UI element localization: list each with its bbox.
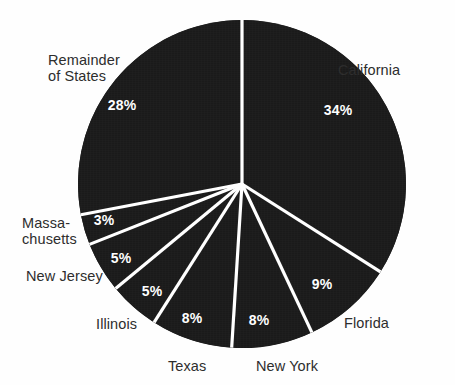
pie-chart-page: Remainder of States California Massa- ch… xyxy=(0,0,455,385)
slice-label-illinois: Illinois xyxy=(96,316,137,332)
slice-label-texas: Texas xyxy=(168,358,206,374)
slice-label-massachusetts: Massa- chusetts xyxy=(22,215,77,247)
slice-value-texas: 8% xyxy=(182,310,203,326)
slice-value-illinois: 5% xyxy=(142,283,163,299)
slice-label-california: California xyxy=(338,62,400,78)
slice-value-remainder-of-states: 28% xyxy=(108,97,137,113)
slice-value-massachusetts: 3% xyxy=(94,212,115,228)
slice-value-new-jersey: 5% xyxy=(111,250,132,266)
slice-value-new-york: 8% xyxy=(249,312,270,328)
slice-value-california: 34% xyxy=(324,102,353,118)
slice-value-florida: 9% xyxy=(312,276,333,292)
slice-label-new-york: New York xyxy=(256,358,318,374)
slice-label-new-jersey: New Jersey xyxy=(26,268,103,284)
pie-slice-remainder-of-states xyxy=(78,20,242,215)
slice-label-florida: Florida xyxy=(344,315,389,331)
slice-label-remainder-of-states: Remainder of States xyxy=(48,52,120,84)
